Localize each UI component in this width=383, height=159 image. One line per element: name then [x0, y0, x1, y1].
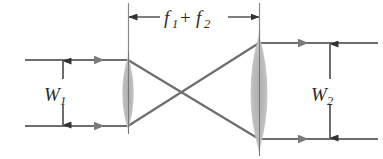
- input-width-label-subscript: 1: [60, 94, 66, 108]
- separation-label-f1: f: [164, 7, 172, 28]
- lens-1: [122, 52, 134, 134]
- ray-diagram-canvas: f 1 + f 2: [0, 0, 383, 159]
- ray-lower-to-upper: [128, 43, 259, 126]
- separation-label-f2-subscript: 2: [204, 17, 210, 31]
- optics-figure: f 1 + f 2: [0, 0, 383, 159]
- separation-label-f1-subscript: 1: [172, 17, 178, 31]
- lens-2: [251, 30, 268, 156]
- separation-label-f2: f: [196, 7, 204, 28]
- ray-upper-to-lower: [128, 60, 259, 139]
- separation-label-operator: +: [180, 7, 191, 28]
- crossing-rays: [128, 43, 259, 139]
- output-width-label-subscript: 2: [327, 94, 333, 108]
- input-beam: [25, 60, 128, 126]
- separation-dimension: [129, 3, 260, 58]
